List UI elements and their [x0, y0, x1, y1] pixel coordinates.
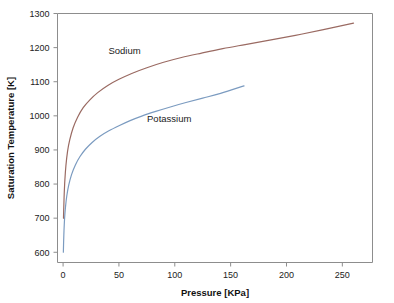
x-tick-label: 250 [335, 270, 350, 280]
series-label-potassium: Potassium [147, 113, 191, 124]
y-tick-label: 800 [34, 179, 49, 189]
y-tick-label: 900 [34, 145, 49, 155]
x-tick-label: 0 [61, 270, 66, 280]
y-tick-label: 1200 [29, 43, 49, 53]
y-tick-label: 1000 [29, 111, 49, 121]
x-tick-label: 200 [279, 270, 294, 280]
y-tick-label: 700 [34, 213, 49, 223]
y-axis-title: Saturation Temperature [K] [5, 77, 16, 199]
x-tick-label: 100 [167, 270, 182, 280]
series-label-sodium: Sodium [108, 45, 140, 56]
x-tick-label: 150 [223, 270, 238, 280]
x-tick-label: 50 [114, 270, 124, 280]
y-tick-label: 600 [34, 248, 49, 258]
chart-figure: 6007008009001000110012001300 05010015020… [0, 0, 394, 303]
x-axis-title: Pressure [KPa] [181, 287, 249, 298]
y-tick-label: 1300 [29, 9, 49, 19]
y-tick-label: 1100 [30, 77, 49, 87]
saturation-temperature-chart: 6007008009001000110012001300 05010015020… [0, 0, 394, 303]
chart-background [0, 0, 394, 303]
